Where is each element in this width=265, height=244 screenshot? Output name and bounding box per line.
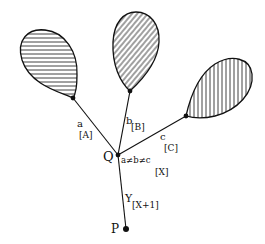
label-b-sub: [B] — [131, 122, 145, 132]
node-p-dot — [123, 226, 129, 232]
loop-b — [113, 12, 159, 91]
label-q-sub: [X] — [155, 167, 168, 177]
node-q-dot — [116, 153, 121, 158]
dot-loop-b — [128, 89, 133, 94]
label-q-condition: a≠b≠c — [121, 155, 151, 165]
dot-loop-a — [71, 96, 76, 101]
dot-loop-c — [184, 114, 189, 119]
label-c: c — [160, 131, 166, 142]
label-c-sub: [C] — [164, 143, 178, 153]
node-p-label: P — [111, 222, 119, 236]
loop-a — [20, 30, 77, 98]
tree-diagram: a [A] b [B] c [C] Q a≠b≠c [X] Y [X+1] P — [0, 0, 265, 244]
label-a-sub: [A] — [79, 130, 93, 140]
label-a: a — [77, 118, 83, 129]
label-y-sub: [X+1] — [132, 200, 159, 210]
node-q-label: Q — [103, 149, 114, 164]
loop-c — [186, 59, 252, 118]
